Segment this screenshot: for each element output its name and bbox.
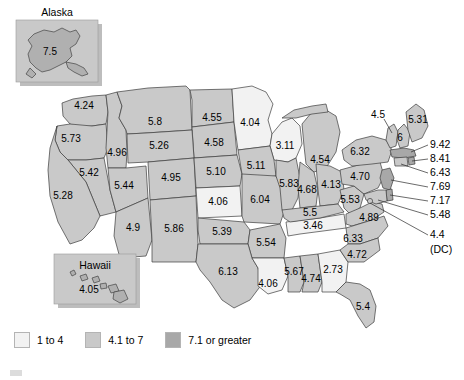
leader-new-jersey xyxy=(391,180,428,187)
label-virginia: 4.89 xyxy=(359,212,379,223)
label-new-york: 6.32 xyxy=(350,146,370,157)
label-illinois: 5.83 xyxy=(279,178,299,189)
label-utah: 5.44 xyxy=(114,180,134,191)
label-vermont: 4.5 xyxy=(371,109,385,120)
label-texas: 6.13 xyxy=(218,266,238,277)
label-florida: 5.4 xyxy=(356,301,370,312)
label-colorado: 4.95 xyxy=(161,172,181,183)
label-kansas: 4.06 xyxy=(208,196,228,207)
callout-maryland: 5.48 xyxy=(430,208,451,220)
legend-label-low: 1 to 4 xyxy=(37,334,63,346)
alaska-inset-title: Alaska xyxy=(41,6,73,18)
label-new-mexico: 5.86 xyxy=(164,223,184,234)
label-pennsylvania: 4.70 xyxy=(350,171,370,182)
callout-new-jersey: 7.69 xyxy=(430,180,451,192)
callout-delaware: 7.17 xyxy=(430,194,451,206)
label-north-carolina: 6.33 xyxy=(343,233,363,244)
leader-delaware xyxy=(390,195,428,201)
state-district-of-columbia[interactable] xyxy=(367,198,372,203)
leader-massachusetts xyxy=(411,145,428,152)
legend-label-high: 7.1 or greater xyxy=(188,334,251,346)
hawaii-inset-title: Hawaii xyxy=(79,259,111,271)
callout-dc-value: 4.4 xyxy=(430,228,445,240)
label-indiana: 4.68 xyxy=(297,184,317,195)
map-canvas: 4.24 5.73 4.96 5.8 4.55 4.58 4.04 3.11 4… xyxy=(0,0,464,380)
label-north-dakota: 4.55 xyxy=(202,112,222,123)
label-arizona: 4.9 xyxy=(126,222,140,233)
us-choropleth-map-figure: 4.24 5.73 4.96 5.8 4.55 4.58 4.04 3.11 4… xyxy=(0,0,464,380)
legend-item-mid[interactable]: 4.1 to 7 xyxy=(85,332,143,348)
hawaii-value: 4.05 xyxy=(79,284,99,295)
legend-swatch-high xyxy=(165,332,181,348)
label-michigan: 4.54 xyxy=(310,154,330,165)
label-louisiana: 4.06 xyxy=(258,278,278,289)
alaska-inset: Alaska 7.5 xyxy=(16,6,102,86)
state-montana[interactable] xyxy=(117,86,192,134)
label-california: 5.28 xyxy=(53,190,73,201)
label-alabama: 4.74 xyxy=(301,273,321,284)
leader-connecticut xyxy=(401,164,428,173)
label-washington: 4.24 xyxy=(74,100,94,111)
footer-swatch xyxy=(10,370,22,376)
label-missouri: 6.04 xyxy=(250,194,270,205)
map-legend: 1 to 4 4.1 to 7 7.1 or greater xyxy=(14,332,273,348)
label-kentucky: 5.5 xyxy=(303,207,317,218)
label-new-hampshire: 6 xyxy=(397,132,403,143)
label-oklahoma: 5.39 xyxy=(212,226,232,237)
label-georgia: 2.73 xyxy=(323,264,343,275)
legend-label-mid: 4.1 to 7 xyxy=(108,334,143,346)
footer-cutoff-strip xyxy=(10,370,28,376)
label-maine: 5.31 xyxy=(408,114,428,125)
callout-connecticut: 6.43 xyxy=(430,166,451,178)
callout-values: 9.42 8.41 6.43 7.69 7.17 5.48 4.4 (DC) xyxy=(430,138,452,255)
label-minnesota: 4.04 xyxy=(240,117,260,128)
label-idaho: 4.96 xyxy=(107,147,127,158)
label-south-dakota: 4.58 xyxy=(204,137,224,148)
label-ohio: 4.13 xyxy=(321,179,341,190)
label-iowa: 5.11 xyxy=(247,160,266,171)
callout-dc-note: (DC) xyxy=(430,243,452,255)
label-arkansas: 5.54 xyxy=(256,237,276,248)
label-montana: 5.8 xyxy=(148,116,162,127)
legend-swatch-mid xyxy=(85,332,101,348)
alaska-value: 7.5 xyxy=(43,46,57,57)
label-wyoming: 5.26 xyxy=(149,140,169,151)
label-wisconsin: 3.11 xyxy=(276,140,295,151)
state-connecticut[interactable] xyxy=(394,157,408,166)
leader-maryland xyxy=(378,200,428,215)
legend-item-high[interactable]: 7.1 or greater xyxy=(165,332,251,348)
legend-item-low[interactable]: 1 to 4 xyxy=(14,332,63,348)
label-nebraska: 5.10 xyxy=(206,166,226,177)
state-massachusetts[interactable] xyxy=(390,148,416,158)
label-south-carolina: 4.72 xyxy=(347,249,367,260)
hawaii-inset: Hawaii 4.05 xyxy=(54,254,140,308)
legend-swatch-low xyxy=(14,332,30,348)
label-tennessee: 3.46 xyxy=(303,220,323,231)
state-new-jersey[interactable] xyxy=(380,168,394,190)
callout-massachusetts: 9.42 xyxy=(430,138,451,150)
label-nevada: 5.42 xyxy=(79,167,99,178)
callout-rhode-island: 8.41 xyxy=(430,152,451,164)
label-west-virginia: 5.53 xyxy=(340,194,360,205)
label-oregon: 5.73 xyxy=(61,133,81,144)
